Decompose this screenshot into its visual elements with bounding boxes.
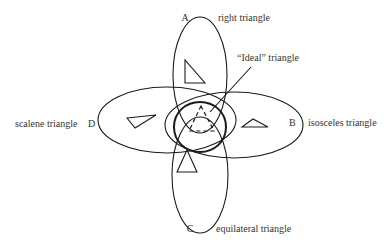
scalene-triangle-icon (127, 115, 156, 128)
set-b-letter: B (289, 117, 296, 128)
set-c-letter: C (187, 223, 194, 234)
set-a-letter: A (181, 12, 189, 23)
set-d-letter: D (88, 118, 95, 129)
equilateral-triangle-icon (177, 150, 197, 172)
set-d-label: scalene triangle (15, 118, 78, 129)
isosceles-triangle-icon (242, 119, 268, 127)
ellipse-c-equilateral (172, 117, 228, 233)
set-b-label: isosceles triangle (308, 117, 377, 128)
ellipse-d-scalene (98, 87, 236, 153)
triangle-diagram: A right triangle B isosceles triangle C … (0, 0, 390, 244)
ellipse-a-right (173, 17, 227, 133)
set-a-label: right triangle (218, 12, 270, 23)
set-c-label: equilateral triangle (216, 223, 292, 234)
ideal-region-outline (174, 102, 226, 152)
ideal-pointer-line (210, 67, 251, 112)
right-triangle-icon (185, 60, 205, 83)
ideal-triangle-label: “Ideal” triangle (237, 52, 299, 63)
